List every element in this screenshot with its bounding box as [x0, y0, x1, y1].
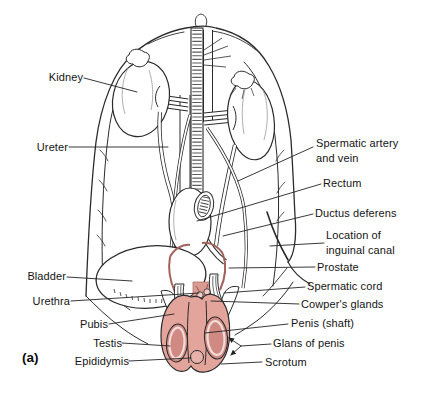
- label-pubis: Pubis: [80, 317, 108, 332]
- label-spermatic-cord: Spermatic cord: [307, 279, 382, 294]
- scrotum-group: [161, 294, 230, 372]
- left-kidney: [106, 56, 177, 142]
- label-testis: Testis: [93, 336, 122, 351]
- glans-arrow-lower: [231, 346, 241, 355]
- glans-arrow-upper: [229, 338, 241, 346]
- scrotum-leader: [221, 362, 262, 364]
- left-adrenal-gland: [126, 49, 149, 67]
- label-urethra: Urethra: [33, 294, 70, 309]
- label-rectum: Rectum: [323, 176, 362, 191]
- anatomy-illustration: [0, 0, 430, 401]
- label-epididymis: Epididymis: [75, 354, 129, 369]
- label-ductus-deferens: Ductus deferens: [315, 206, 397, 221]
- prostate-leader: [229, 267, 315, 268]
- panel-label: (a): [22, 350, 39, 365]
- anatomy-figure: Kidney Ureter Bladder Urethra Pubis Test…: [0, 0, 430, 401]
- label-spermatic-artery-and-vein: Spermatic artery and vein: [316, 136, 398, 166]
- right-adrenal-gland: [231, 71, 254, 89]
- label-kidney: Kidney: [49, 70, 83, 85]
- rectum-leader: [197, 184, 321, 221]
- label-glans-of-penis: Glans of penis: [273, 336, 345, 351]
- label-scrotum: Scrotum: [265, 355, 307, 370]
- label-ureter: Ureter: [37, 140, 68, 155]
- label-inguinal-canal: Location of inguinal canal: [326, 228, 395, 258]
- inguinal-canal-leader: [270, 243, 324, 246]
- label-bladder: Bladder: [27, 269, 66, 284]
- epididymis: [191, 351, 204, 364]
- glans-leader: [241, 344, 271, 346]
- label-penis-shaft: Penis (shaft): [291, 316, 354, 331]
- label-cowpers-glands: Cowper's glands: [301, 297, 383, 312]
- right-kidney: [223, 77, 280, 163]
- label-prostate: Prostate: [317, 260, 359, 275]
